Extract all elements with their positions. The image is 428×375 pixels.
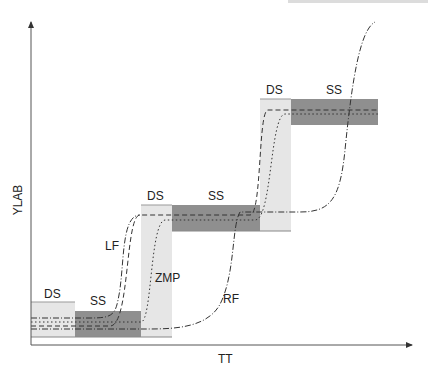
ds-box-3 (260, 99, 291, 231)
rf-curve (31, 22, 375, 329)
phase-label: SS (90, 294, 106, 308)
curve-label-zmp: ZMP (155, 271, 180, 285)
y-axis-label: YLAB (11, 185, 25, 216)
phase-label: DS (266, 83, 283, 97)
x-axis-label: TT (218, 352, 233, 366)
ds-box-1 (31, 302, 75, 337)
phase-label: SS (208, 189, 224, 203)
phase-label: DS (147, 189, 164, 203)
gait-diagram: DS SS DS SS DS SS LF ZMP RF TT YLAB (0, 0, 428, 375)
phase-label: DS (44, 287, 61, 301)
ss-box-3 (291, 99, 378, 125)
ss-box-2 (172, 205, 260, 231)
curve-label-rf: RF (223, 292, 239, 306)
ss-box-1 (75, 311, 141, 337)
phase-label: SS (326, 83, 342, 97)
curve-label-lf: LF (105, 239, 119, 253)
